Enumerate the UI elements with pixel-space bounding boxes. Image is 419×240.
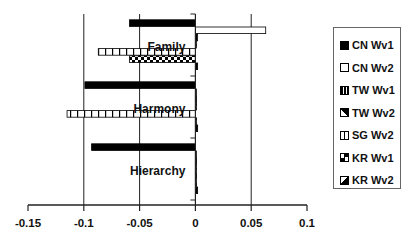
- checkerboard-swatch-icon: [340, 153, 349, 162]
- category-label: Harmony: [133, 102, 185, 116]
- category-label: Hierarchy: [130, 164, 186, 178]
- bar-cn-wv1: [85, 82, 195, 89]
- legend-label: TW Wv1: [352, 84, 395, 96]
- legend: CN Wv1 CN Wv2 TW Wv1 TW Wv2 SG Wv2 KR Wv…: [333, 27, 401, 189]
- legend-item-kr-wv1: KR Wv1: [340, 147, 400, 170]
- x-tick-label: 0.1: [299, 217, 316, 229]
- legend-label: KR Wv2: [352, 174, 394, 186]
- x-tick-label: -0.1: [74, 217, 94, 229]
- category-label: Family: [147, 40, 185, 54]
- bar-cn-wv1: [130, 20, 196, 27]
- legend-item-kr-wv2: KR Wv2: [340, 169, 400, 192]
- legend-item-cn-wv2: CN Wv2: [340, 57, 400, 80]
- bar-kr-wv1: [130, 56, 196, 63]
- x-tick-label: 0.05: [240, 217, 263, 229]
- legend-label: CN Wv1: [352, 39, 394, 51]
- corner-block-swatch-icon: [340, 176, 349, 185]
- legend-label: TW Wv2: [352, 107, 395, 119]
- bar-cn-wv2: [195, 27, 265, 34]
- legend-item-sg-wv2: SG Wv2: [340, 124, 400, 147]
- x-tick-label: -0.15: [15, 217, 42, 229]
- legend-item-tw-wv1: TW Wv1: [340, 79, 400, 102]
- solid-swatch-icon: [340, 41, 349, 50]
- legend-item-tw-wv2: TW Wv2: [340, 102, 400, 125]
- diagonal-swatch-icon: [340, 108, 349, 117]
- grid-swatch-icon: [340, 131, 349, 140]
- legend-item-cn-wv1: CN Wv1: [340, 34, 400, 57]
- legend-label: KR Wv1: [352, 152, 394, 164]
- bar-cn-wv1: [92, 144, 196, 151]
- vertical-stripes-swatch-icon: [340, 86, 349, 95]
- legend-label: SG Wv2: [352, 129, 394, 141]
- white-swatch-icon: [340, 63, 349, 72]
- x-tick-label: -0.05: [126, 217, 153, 229]
- x-tick-label: 0: [192, 217, 198, 229]
- legend-label: CN Wv2: [352, 62, 394, 74]
